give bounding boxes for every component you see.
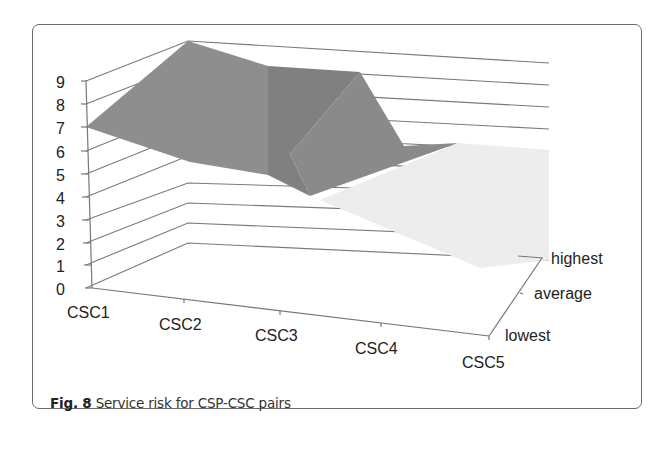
depth-tick-labels: highest average lowest [505, 250, 603, 344]
z-tick-6: 6 [56, 144, 65, 161]
z-tick-1: 1 [56, 258, 65, 275]
depth-tick-lowest: lowest [505, 327, 551, 344]
x-tick-csc2: CSC2 [159, 316, 202, 333]
z-tick-2: 2 [56, 236, 65, 253]
z-tick-8: 8 [56, 97, 65, 114]
z-tick-labels: 9 8 7 6 5 4 3 2 1 0 [56, 74, 65, 298]
surface-segment-csc1-csc2 [86, 41, 268, 175]
risk-surface [86, 41, 549, 268]
z-tick-3: 3 [56, 213, 65, 230]
depth-tick-highest: highest [551, 250, 603, 267]
z-tick-4: 4 [56, 190, 65, 207]
surface-chart: 9 8 7 6 5 4 3 2 1 0 CSC1 CSC2 CSC3 CSC4 … [0, 0, 668, 449]
x-tick-labels: CSC1 CSC2 CSC3 CSC4 CSC5 [67, 304, 505, 371]
figure-number: Fig. 8 [50, 395, 92, 411]
z-tick-0: 0 [56, 281, 65, 298]
z-tick-9: 9 [56, 74, 65, 91]
x-tick-csc4: CSC4 [355, 340, 398, 357]
x-tick-csc1: CSC1 [67, 304, 110, 321]
x-tick-csc5: CSC5 [462, 354, 505, 371]
z-tick-7: 7 [56, 120, 65, 137]
figure-caption: Fig. 8 Service risk for CSP-CSC pairs [50, 395, 291, 411]
z-axis [81, 81, 92, 288]
x-tick-csc3: CSC3 [255, 327, 298, 344]
depth-tick-average: average [534, 285, 592, 302]
figure-caption-text: Service risk for CSP-CSC pairs [92, 395, 291, 411]
z-tick-5: 5 [56, 167, 65, 184]
